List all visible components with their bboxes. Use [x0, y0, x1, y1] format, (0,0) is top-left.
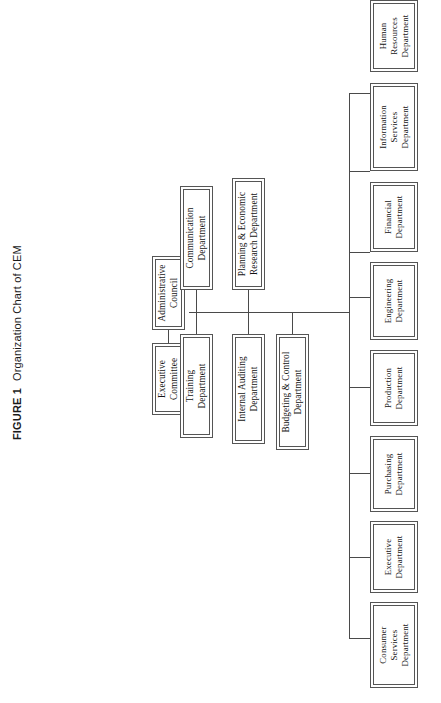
node-information-services-department[interactable]: Information Services Department: [370, 83, 418, 171]
node-communication-department[interactable]: Communication Department: [180, 186, 213, 290]
connector-stub-consumer-services: [349, 638, 370, 639]
node-label-executive-committee: Executive Committee: [157, 358, 180, 400]
node-label-administrative-council: Administrative Council: [157, 264, 180, 321]
node-consumer-services-department[interactable]: Consumer Services Department: [370, 602, 418, 688]
node-label-executive-department: Executive Department: [383, 536, 405, 579]
connector-stub-purchasing: [349, 473, 370, 474]
connector-staff-left-bus: [196, 312, 197, 334]
node-label-budgeting-control-department: Budgeting & Control Department: [281, 352, 304, 433]
node-label-human-resources-department: Human Resources Department: [378, 15, 411, 58]
connector-staff-left-bus2: [248, 312, 249, 334]
node-executive-department[interactable]: Executive Department: [370, 521, 418, 593]
connector-staff-right-bus2: [248, 290, 249, 313]
connector-council-to-committee: [168, 330, 169, 343]
figure-page: FIGURE 1 Organization Chart of CEM: [0, 0, 441, 703]
node-label-purchasing-department: Purchasing Department: [383, 453, 405, 496]
node-label-production-department: Production Department: [383, 367, 405, 410]
node-financial-department[interactable]: Financial Department: [370, 182, 418, 252]
node-planning-economic-research-department[interactable]: Planning & Economic Research Department: [232, 178, 265, 290]
node-training-department[interactable]: Training Department: [180, 334, 213, 438]
node-label-training-department: Training Department: [185, 364, 208, 409]
node-label-financial-department: Financial Department: [383, 196, 405, 239]
node-human-resources-department[interactable]: Human Resources Department: [370, 0, 418, 72]
connector-staff-left-bus3: [292, 312, 293, 334]
connector-stub-financial: [349, 252, 370, 253]
node-budgeting-control-department[interactable]: Budgeting & Control Department: [276, 334, 309, 450]
connector-stub-production: [349, 387, 370, 388]
connector-stub-engineering: [349, 297, 370, 298]
node-label-communication-department: Communication Department: [185, 207, 208, 268]
connector-stub-information-services: [349, 171, 370, 172]
node-label-engineering-department: Engineering Department: [383, 279, 405, 323]
connector-staff-right-bus: [196, 290, 197, 313]
node-label-planning-economic-research-department: Planning & Economic Research Department: [237, 192, 260, 277]
organization-chart: Administrative Council Executive Committ…: [0, 0, 441, 703]
connector-stub-executive-dept: [349, 557, 370, 558]
connector-committee-to-bus: [189, 312, 324, 313]
node-internal-auditing-department[interactable]: Internal Auditing Department: [232, 334, 265, 444]
connector-bus-feeder: [324, 312, 350, 313]
node-purchasing-department[interactable]: Purchasing Department: [370, 436, 418, 512]
node-label-internal-auditing-department: Internal Auditing Department: [237, 356, 260, 421]
node-label-consumer-services-department: Consumer Services Department: [378, 624, 411, 667]
node-engineering-department[interactable]: Engineering Department: [370, 262, 418, 340]
node-label-information-services-department: Information Services Department: [378, 105, 411, 149]
connector-stub-human-resources: [349, 93, 370, 94]
node-production-department[interactable]: Production Department: [370, 350, 418, 426]
